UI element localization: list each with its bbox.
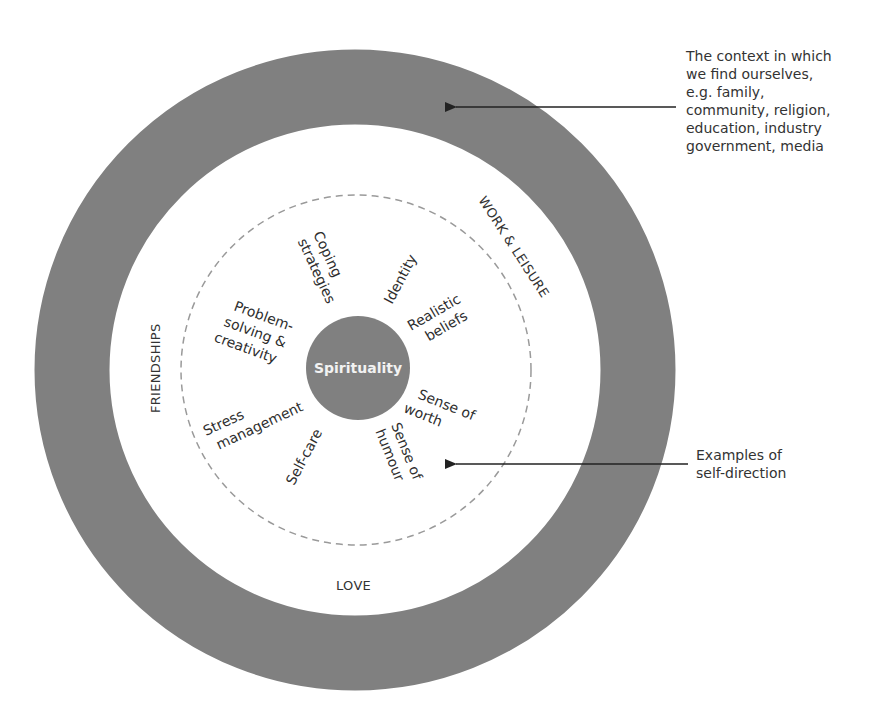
item-problem-solving-creativity: Problem- solving & creativity [212, 295, 296, 368]
item-realistic-beliefs: Realistic beliefs [405, 291, 473, 350]
context-annotation: The context in which we find ourselves, … [686, 47, 832, 155]
item-stress-management: Stress management [201, 382, 306, 455]
item-identity: Identity [381, 252, 420, 307]
ring-label-work-leisure: WORK & LEISURE [475, 193, 552, 300]
item-sense-of-worth: Sense of worth [402, 383, 479, 440]
svg-text:Identity: Identity [381, 252, 420, 307]
self-direction-annotation: Examples of self-direction [696, 446, 786, 482]
item-self-care: Self-care [283, 426, 326, 487]
ring-label-love: LOVE [336, 578, 371, 593]
item-coping-strategies: Coping strategies [295, 229, 354, 306]
ring-label-friendships: FRIENDSHIPS [148, 323, 163, 413]
item-sense-of-humour: Sense of humour [372, 420, 426, 489]
svg-text:Self-care: Self-care [283, 426, 326, 487]
spirituality-label: Spirituality [314, 360, 402, 376]
